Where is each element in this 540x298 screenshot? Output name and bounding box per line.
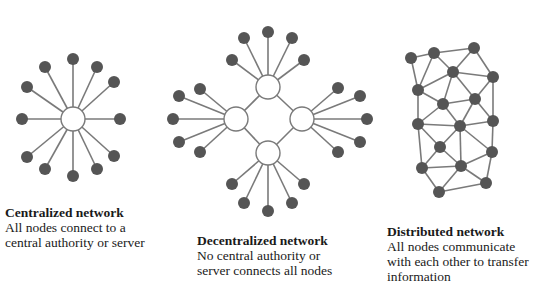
hub-circle <box>61 107 85 131</box>
node-dot <box>433 186 445 198</box>
node-dot <box>332 146 344 158</box>
node-dot <box>447 66 459 78</box>
distributed-caption: Distributed network All nodes communicat… <box>387 224 529 284</box>
decentralized-network-graphic <box>167 26 373 217</box>
edge-line <box>453 72 493 77</box>
node-dot <box>91 61 103 73</box>
edge-line <box>460 126 492 152</box>
hub-circle <box>224 107 248 131</box>
decentralized-desc-line-1: No central authority or <box>197 248 332 263</box>
decentralized-desc-line-2: server connects all nodes <box>197 263 332 278</box>
node-dot <box>354 90 366 102</box>
node-dot <box>226 54 238 66</box>
node-dot <box>468 42 480 54</box>
node-dot <box>114 113 126 125</box>
node-dot <box>167 113 179 125</box>
hub-circle <box>256 75 280 99</box>
centralized-caption: Centralized network All nodes connect to… <box>5 205 145 250</box>
node-dot <box>412 118 424 130</box>
distributed-desc-line-3: information <box>387 269 529 284</box>
edge-line <box>418 124 422 168</box>
node-dot <box>262 26 274 38</box>
node-dot <box>238 197 250 209</box>
edge-line <box>418 53 434 90</box>
node-dot <box>416 162 428 174</box>
node-dot <box>486 146 498 158</box>
node-dot <box>238 32 250 44</box>
centralized-title: Centralized network <box>5 205 145 220</box>
node-dot <box>91 163 103 175</box>
node-dot <box>361 113 373 125</box>
distributed-title: Distributed network <box>387 224 529 239</box>
edge-line <box>418 124 460 126</box>
centralized-desc-line-2: central authority or server <box>5 235 145 250</box>
node-dot <box>194 146 206 158</box>
node-dot <box>454 120 466 132</box>
node-dot <box>298 54 310 66</box>
node-dot <box>39 163 51 175</box>
node-dot <box>428 47 440 59</box>
hub-circle <box>256 141 280 165</box>
node-dot <box>480 177 492 189</box>
distributed-desc-line-1: All nodes communicate <box>387 239 529 254</box>
edge-line <box>434 48 474 53</box>
node-dot <box>194 83 206 95</box>
node-dot <box>298 178 310 190</box>
node-dot <box>286 32 298 44</box>
hub-circle <box>290 107 314 131</box>
decentralized-caption: Decentralized network No central authori… <box>197 233 332 278</box>
node-dot <box>434 141 446 153</box>
node-dot <box>67 170 79 182</box>
node-dot <box>16 113 28 125</box>
node-dot <box>455 160 467 172</box>
node-dot <box>469 93 481 105</box>
node-dot <box>226 178 238 190</box>
node-dot <box>21 151 33 163</box>
centralized-network-graphic <box>16 53 126 182</box>
node-dot <box>286 197 298 209</box>
distributed-desc-line-2: with each other to transfer <box>387 254 529 269</box>
node-dot <box>39 61 51 73</box>
edge-line <box>460 126 461 166</box>
node-dot <box>332 82 344 94</box>
node-dot <box>405 52 417 64</box>
node-dot <box>67 53 79 65</box>
decentralized-title: Decentralized network <box>197 233 332 248</box>
distributed-network-graphic <box>405 42 499 198</box>
node-dot <box>262 205 274 217</box>
node-dot <box>173 90 185 102</box>
centralized-desc-line-1: All nodes connect to a <box>5 220 145 235</box>
node-dot <box>354 136 366 148</box>
node-dot <box>437 98 449 110</box>
node-dot <box>487 115 499 127</box>
node-dot <box>412 84 424 96</box>
node-dot <box>173 136 185 148</box>
node-dot <box>21 81 33 93</box>
node-dot <box>487 71 499 83</box>
node-dot <box>108 76 120 88</box>
node-dot <box>108 150 120 162</box>
